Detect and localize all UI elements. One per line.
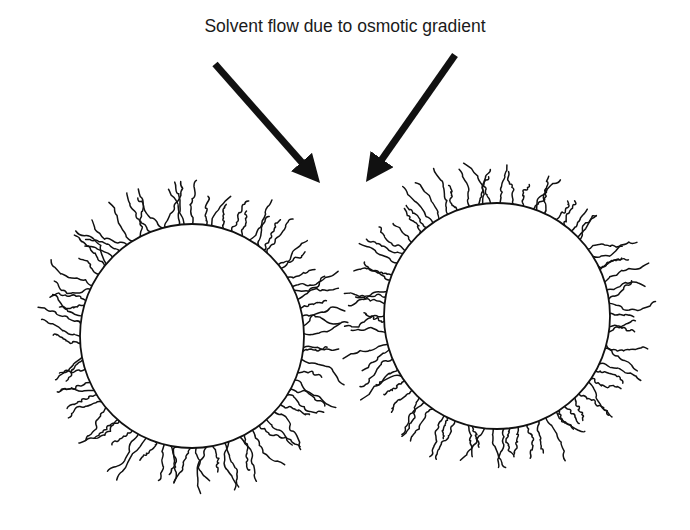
polymer-chain — [532, 189, 546, 209]
osmotic-flow-diagram: Solvent flow due to osmotic gradient — [0, 0, 690, 530]
polymer-chain — [546, 418, 565, 461]
polymer-chain — [366, 239, 403, 253]
polymer-chain — [79, 258, 99, 274]
polymer-chain — [343, 345, 388, 359]
polymer-chain — [301, 301, 327, 309]
polymer-chain — [244, 435, 249, 470]
polymer-chain — [117, 438, 146, 480]
polymer-chain — [591, 378, 621, 388]
polymer-chain — [508, 172, 514, 205]
polymer-chain — [571, 209, 587, 231]
polymer-chain — [359, 244, 397, 263]
polymer-chain — [264, 220, 281, 250]
polymer-chain — [298, 371, 322, 377]
polymer-chain — [38, 307, 81, 323]
polymer-chain — [304, 322, 348, 335]
right-arrow-icon — [373, 55, 455, 172]
polymer-chain — [600, 258, 622, 270]
polymer-chain — [484, 169, 491, 203]
polymer-chain — [287, 395, 323, 413]
polymer-chain — [223, 204, 227, 228]
polymer-chain — [442, 417, 447, 438]
polymer-chain — [140, 442, 157, 460]
polymer-chain — [127, 193, 151, 232]
polymer-chain — [258, 216, 269, 246]
polymer-chain — [54, 281, 90, 294]
polymer-chain — [537, 421, 543, 453]
polymer-chain — [287, 270, 315, 278]
left-arrow-icon — [215, 64, 312, 174]
polymer-chain — [267, 420, 293, 445]
polymer-chain — [242, 211, 247, 236]
polymer-chain — [212, 446, 219, 472]
left-particle — [80, 224, 304, 448]
polymer-chain — [402, 402, 424, 434]
polymer-chain — [500, 165, 507, 203]
polymer-chain — [415, 183, 438, 220]
polymer-chain — [56, 369, 86, 379]
polymer-chain — [295, 380, 336, 407]
polymer-chain — [596, 371, 623, 383]
right-particle — [384, 203, 610, 429]
polymer-chain — [514, 427, 519, 457]
polymer-chain — [159, 445, 165, 481]
polymer-chain — [376, 369, 397, 385]
polymer-chain — [609, 302, 655, 311]
diagram-canvas — [0, 0, 690, 530]
polymer-chain — [430, 416, 444, 457]
polymer-chain — [344, 293, 385, 297]
polymer-chain — [459, 169, 469, 206]
polymer-chain — [190, 180, 196, 224]
polymer-chain — [392, 391, 413, 413]
polymer-chain — [112, 430, 132, 444]
polymer-chain — [85, 246, 113, 257]
polymer-chain — [506, 428, 513, 454]
polymer-chain — [109, 202, 133, 241]
polymer-chain — [498, 429, 504, 468]
polymer-chain — [360, 359, 393, 387]
polymer-chain — [364, 262, 392, 275]
polymer-chain — [345, 315, 384, 326]
polymer-chain — [351, 328, 385, 333]
polymer-chain — [564, 201, 576, 226]
polymer-chain — [384, 381, 405, 395]
solvent-flow-arrows — [215, 55, 455, 174]
polymer-chain — [393, 224, 412, 243]
polymer-chain — [605, 347, 647, 351]
polymer-chain — [50, 293, 86, 301]
polymer-chain — [205, 196, 209, 225]
polymer-chain — [138, 189, 162, 228]
polymer-chain — [565, 406, 580, 423]
polymer-chain — [607, 282, 645, 290]
polymer-chain — [527, 425, 534, 459]
polymer-chain — [610, 313, 634, 316]
polymer-chain — [298, 288, 339, 299]
polymer-chain — [522, 185, 529, 207]
polymer-chain — [51, 260, 92, 286]
polymer-chain — [605, 263, 649, 282]
polymer-chain — [555, 201, 569, 219]
polymer-chain — [197, 447, 206, 493]
polymer-chain — [361, 375, 402, 400]
polymer-chain — [449, 185, 457, 210]
polymer-chain — [579, 394, 609, 416]
polymer-chain — [95, 421, 119, 438]
polymer-chain — [356, 297, 385, 304]
polymer-chain — [53, 295, 82, 316]
polymer-chain — [225, 443, 239, 487]
polymer-chain — [253, 430, 285, 465]
polymer-chain — [42, 319, 80, 336]
polymer-chain — [260, 425, 300, 446]
polymer-chain — [212, 196, 231, 225]
polymer-chain — [267, 219, 293, 253]
